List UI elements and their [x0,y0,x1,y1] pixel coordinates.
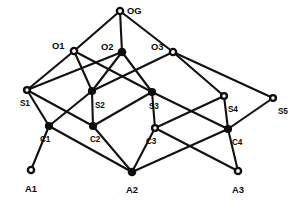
node-label-c4: C4 [232,138,243,147]
node-label-a2: A2 [126,184,138,195]
graph-edge [31,126,49,170]
graph-edge [132,129,228,172]
node-label-o1: O1 [52,40,64,51]
graph-edge [173,52,224,96]
node-label-c3: C3 [146,137,157,146]
graph-edge [132,128,155,172]
node-label-s2: S2 [95,101,105,110]
graph-node-o1[interactable] [71,48,77,54]
graph-edge [228,129,238,171]
graph-edge [74,51,152,92]
graph-edge [120,11,173,52]
graph-node-a2[interactable] [129,169,135,175]
graph-edge [92,52,173,91]
node-label-c2: C2 [90,135,101,144]
node-label-o3: O3 [151,41,163,52]
graph-node-s5[interactable] [270,95,276,101]
graph-edge [92,91,93,126]
label-layer: OGO1O2O3S1S2S3S4S5C1C2C3C4A1A2A3 [20,5,288,195]
graph-node-o2[interactable] [119,49,125,55]
node-label-s4: S4 [228,105,238,114]
graph-edge [93,126,132,172]
graph-node-s4[interactable] [221,93,227,99]
graph-edge [27,51,74,90]
graph-edge [155,128,238,171]
graph-node-c4[interactable] [225,126,231,132]
graph-node-c1[interactable] [46,123,52,129]
graph-edge [49,126,132,172]
node-label-a1: A1 [25,183,37,194]
graph-edge [155,96,224,128]
node-label-c1: C1 [40,135,51,144]
node-label-a3: A3 [232,184,244,195]
graph-node-o3[interactable] [170,49,176,55]
diagram-canvas: OGO1O2O3S1S2S3S4S5C1C2C3C4A1A2A3 [0,0,301,200]
graph-node-s3[interactable] [149,89,155,95]
node-label-o2: O2 [101,41,113,52]
graph-node-a1[interactable] [28,167,34,173]
graph-node-c3[interactable] [152,125,158,131]
graph-edge [173,52,273,98]
graph-edge [120,11,122,52]
graph-edge [122,52,152,92]
graph-node-s2[interactable] [89,88,95,94]
graph-node-og[interactable] [117,8,123,14]
node-label-s3: S3 [149,102,159,111]
node-label-s5: S5 [278,107,288,116]
graph-node-a3[interactable] [235,168,241,174]
node-label-s1: S1 [20,99,30,108]
graph-node-s1[interactable] [24,87,30,93]
graph-svg: OGO1O2O3S1S2S3S4S5C1C2C3C4A1A2A3 [0,0,301,200]
node-label-og: OG [127,5,141,16]
graph-node-c2[interactable] [90,123,96,129]
